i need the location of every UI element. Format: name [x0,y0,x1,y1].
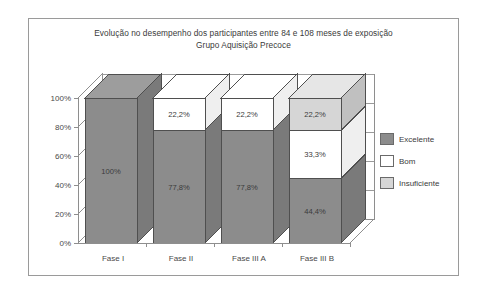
bar-fase-ii-excelente-value-label: 77,8% [168,183,190,192]
bar-fase-i-excelente-value-label: 100% [101,167,121,176]
xtick-label-fase-iii-a: Fase III A [232,254,266,263]
legend-label-insuficiente: Insuficiente [399,179,440,188]
bar-fase-iii-b-bom-value-label: 33,3% [304,150,326,159]
legend-label-bom: Bom [399,157,416,166]
ytick-label-80%: 80% [55,123,71,132]
ytick-label-100%: 100% [51,94,71,103]
chart-figure: Evolução no desempenho dos participantes… [0,0,483,296]
xtick-label-fase-i: Fase I [102,254,124,263]
legend-label-excelente: Excelente [399,135,435,144]
ytick-label-20%: 20% [55,210,71,219]
ytick-label-40%: 40% [55,181,71,190]
ytick-label-60%: 60% [55,152,71,161]
bar-fase-ii-bom-value-label: 22,2% [168,110,190,119]
bar-fase-iii-a-bom-value-label: 22,2% [236,110,258,119]
legend-swatch-bom [380,155,393,166]
chart-plot-area: 0%20%40%60%80%100%100%Fase I77,8%22,2%Fa… [0,0,483,296]
xtick-label-fase-iii-b: Fase III B [300,254,334,263]
legend-swatch-insuficiente [380,177,393,188]
bar-fase-iii-a-excelente-value-label: 77,8% [236,183,258,192]
xtick-label-fase-ii: Fase II [169,254,193,263]
ytick-label-0%: 0% [59,239,71,248]
bar-fase-iii-b-insuficiente-value-label: 22,2% [304,110,326,119]
legend-swatch-excelente [380,133,393,144]
bar-fase-iii-b-excelente-value-label: 44,4% [304,207,326,216]
